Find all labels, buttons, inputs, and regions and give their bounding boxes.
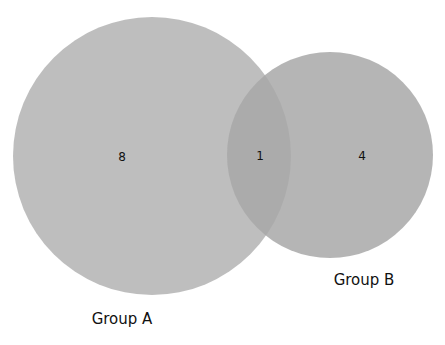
label-group-b: Group B (334, 271, 395, 289)
label-group-a: Group A (92, 310, 153, 328)
venn-diagram: 8 1 4 Group A Group B (0, 0, 445, 345)
count-a-only: 8 (118, 150, 126, 164)
count-intersection: 1 (256, 149, 264, 163)
count-b-only: 4 (358, 149, 366, 163)
